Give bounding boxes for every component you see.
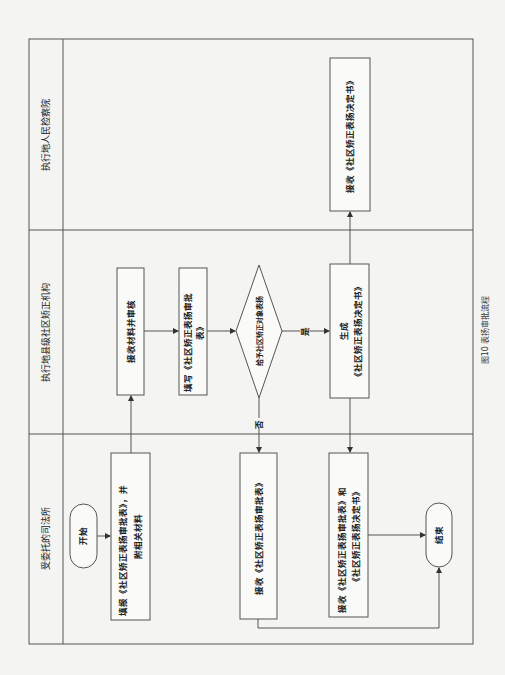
edge-label-no: 否 xyxy=(254,420,264,430)
node-text-review: 接收材料并审核 xyxy=(126,300,136,363)
node-text-receive-both-line1: 接收《社区矫正表扬审批表》和 xyxy=(337,487,347,613)
edge-label-yes: 是 xyxy=(300,327,310,337)
node-text-start: 开始 xyxy=(78,527,88,545)
node-submit xyxy=(111,453,150,620)
node-text-procuratorate-receive: 接收《社区矫正表扬决定书》 xyxy=(345,76,355,193)
node-text-fill-line1: 填写《社区矫正表扬审批 xyxy=(183,293,193,392)
node-text-decision: 给予社区矫正对象表扬 xyxy=(255,296,264,366)
node-text-generate-line2: 《社区矫正表扬决定书》 xyxy=(353,282,363,381)
node-text-fill-line2: 表》 xyxy=(195,322,205,341)
node-text-submit-line1: 填报《社区矫正表扬审批表》，并 xyxy=(118,485,128,616)
lane-label-correction-agency: 执行地县级社区矫正机构 xyxy=(40,283,51,382)
node-text-generate-line1: 生成 xyxy=(339,322,349,340)
node-text-end: 结束 xyxy=(434,526,444,544)
node-text-receive-both-line2: 《社区矫正表扬决定书》 xyxy=(351,487,361,586)
lane-label-judicial-office: 受委托的司法所 xyxy=(40,507,51,570)
node-generate xyxy=(330,264,369,398)
figure-caption: 图10 表扬审批流程 xyxy=(480,296,490,365)
flowchart: 执行地人民检察院 执行地县级社区矫正机构 受委托的司法所 是 否 接收《社区矫正… xyxy=(0,0,505,675)
node-receive-both xyxy=(329,453,368,617)
node-text-receive-form: 接收《社区矫正表扬审批表》 xyxy=(254,478,264,595)
node-text-submit-line2: 附相关材料 xyxy=(133,514,143,559)
lane-label-procuratorate: 执行地人民检察院 xyxy=(40,99,51,171)
